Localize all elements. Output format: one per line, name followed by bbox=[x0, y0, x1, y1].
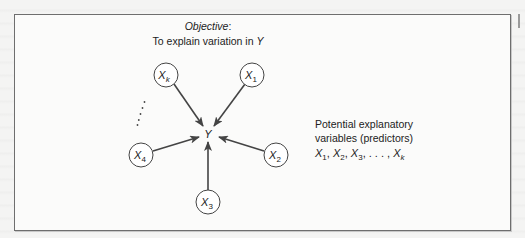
node-xk: Xk bbox=[154, 63, 178, 87]
arrow-x2-to-y bbox=[219, 137, 264, 151]
node-x2: X2 bbox=[264, 143, 288, 167]
node-y: Y bbox=[204, 128, 212, 140]
arrow-x1-to-y bbox=[214, 84, 245, 126]
regression-diagram: Objective: To explain variation in Y Y X… bbox=[0, 0, 525, 238]
arrow-xk-to-y bbox=[174, 84, 203, 126]
arrow-x4-to-y bbox=[153, 137, 199, 151]
legend-predictor-list: X1, X2, X3, . . . , Xk bbox=[314, 147, 406, 162]
objective-text: To explain variation in Y bbox=[153, 35, 265, 47]
node-x3: X3 bbox=[196, 190, 220, 214]
node-x1: X1 bbox=[240, 63, 264, 87]
ellipsis-dots bbox=[137, 101, 146, 126]
node-x4: X4 bbox=[129, 143, 153, 167]
legend-line-2: variables (predictors) bbox=[315, 132, 413, 144]
objective-heading: Objective: bbox=[185, 20, 232, 32]
legend-line-1: Potential explanatory bbox=[315, 118, 414, 130]
